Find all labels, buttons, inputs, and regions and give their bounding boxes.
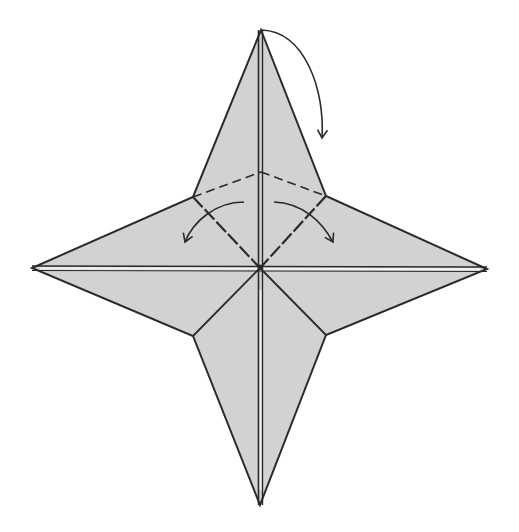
center-point xyxy=(258,265,263,270)
origami-star-diagram xyxy=(0,0,519,532)
